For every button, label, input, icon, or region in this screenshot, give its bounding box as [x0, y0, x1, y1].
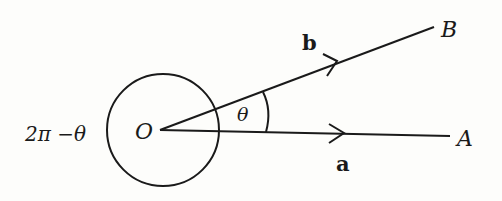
point-b-label: B	[440, 17, 457, 42]
reflex-angle-label: 2π −θ	[24, 122, 86, 146]
origin-label: O	[135, 119, 153, 144]
vector-diagram: O B A b a θ 2π −θ	[0, 0, 502, 201]
vector-a-label: a	[336, 151, 350, 176]
theta-arc	[263, 92, 268, 132]
arrow-b-icon	[323, 54, 337, 76]
vector-a-line	[160, 130, 450, 136]
vector-b-label: b	[302, 30, 317, 55]
vector-b-line	[160, 27, 434, 130]
point-a-label: A	[455, 126, 473, 151]
theta-label: θ	[237, 103, 249, 125]
